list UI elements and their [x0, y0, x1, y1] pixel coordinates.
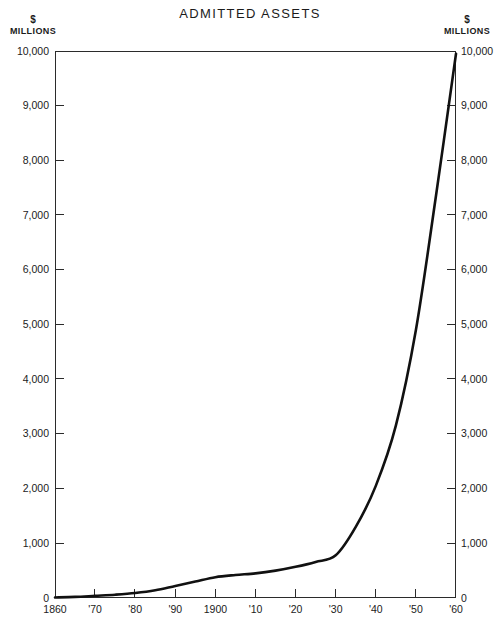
- right-axis-unit-caption: $ MILLIONS: [436, 14, 498, 36]
- y-tick-label-left-10000: 10,000: [1, 46, 49, 57]
- y-tick-label-left-2000: 2,000: [1, 483, 49, 494]
- x-tick-1890: [175, 589, 176, 598]
- y-tick-label-left-3000: 3,000: [1, 428, 49, 439]
- y-tick-label-left-1000: 1,000: [1, 538, 49, 549]
- y-tick-label-left-5000: 5,000: [1, 319, 49, 330]
- y-tick-right-5000: [447, 324, 456, 325]
- y-tick-right-8000: [447, 160, 456, 161]
- dollar-sign-left: $: [2, 14, 64, 26]
- y-tick-label-right-6000: 6,000: [461, 264, 500, 275]
- x-tick-label-1880: '80: [112, 604, 158, 615]
- y-tick-left-8000: [55, 160, 64, 161]
- y-tick-right-2000: [447, 488, 456, 489]
- y-tick-left-2000: [55, 488, 64, 489]
- x-tick-label-1900: 1900: [192, 604, 238, 615]
- y-tick-label-right-4000: 4,000: [461, 374, 500, 385]
- x-tick-label-1920: '20: [273, 604, 319, 615]
- y-tick-label-right-5000: 5,000: [461, 319, 500, 330]
- y-tick-right-1000: [447, 543, 456, 544]
- x-tick-1880: [134, 589, 135, 598]
- x-tick-label-1910: '10: [233, 604, 279, 615]
- y-tick-label-right-10000: 10,000: [461, 46, 500, 57]
- x-tick-label-1890: '90: [152, 604, 198, 615]
- y-tick-right-9000: [447, 105, 456, 106]
- y-tick-left-4000: [55, 378, 64, 379]
- y-tick-left-6000: [55, 269, 64, 270]
- y-tick-label-right-1000: 1,000: [461, 538, 500, 549]
- y-tick-left-5000: [55, 324, 64, 325]
- dollar-sign-right: $: [436, 14, 498, 26]
- x-tick-label-1930: '30: [313, 604, 359, 615]
- y-tick-left-1000: [55, 543, 64, 544]
- x-tick-1940: [375, 589, 376, 598]
- y-tick-label-left-8000: 8,000: [1, 155, 49, 166]
- y-tick-right-4000: [447, 378, 456, 379]
- x-tick-label-1960: '60: [433, 604, 479, 615]
- millions-label-right: MILLIONS: [436, 26, 498, 37]
- y-tick-label-right-0: 0: [461, 593, 500, 604]
- x-tick-1910: [255, 589, 256, 598]
- x-tick-1870: [94, 589, 95, 598]
- y-tick-left-9000: [55, 105, 64, 106]
- plot-area: [55, 51, 456, 598]
- y-tick-label-left-4000: 4,000: [1, 374, 49, 385]
- chart-figure: ADMITTED ASSETS $ MILLIONS $ MILLIONS 00…: [0, 0, 500, 630]
- y-tick-label-left-9000: 9,000: [1, 100, 49, 111]
- x-tick-label-1940: '40: [353, 604, 399, 615]
- x-tick-1920: [295, 589, 296, 598]
- y-tick-left-3000: [55, 433, 64, 434]
- x-tick-label-1860: 1860: [32, 604, 78, 615]
- y-tick-label-right-2000: 2,000: [461, 483, 500, 494]
- y-tick-label-right-7000: 7,000: [461, 210, 500, 221]
- y-tick-right-3000: [447, 433, 456, 434]
- left-axis-unit-caption: $ MILLIONS: [2, 14, 64, 36]
- y-tick-left-7000: [55, 214, 64, 215]
- y-tick-label-right-3000: 3,000: [461, 428, 500, 439]
- x-tick-label-1950: '50: [393, 604, 439, 615]
- x-tick-1950: [415, 589, 416, 598]
- y-tick-label-right-8000: 8,000: [461, 155, 500, 166]
- x-tick-1900: [215, 589, 216, 598]
- y-tick-label-left-7000: 7,000: [1, 210, 49, 221]
- y-tick-label-left-6000: 6,000: [1, 264, 49, 275]
- y-tick-label-left-0: 0: [1, 593, 49, 604]
- y-tick-right-6000: [447, 269, 456, 270]
- x-tick-1930: [335, 589, 336, 598]
- millions-label-left: MILLIONS: [2, 26, 64, 37]
- x-tick-label-1870: '70: [72, 604, 118, 615]
- y-tick-right-7000: [447, 214, 456, 215]
- chart-title: ADMITTED ASSETS: [0, 6, 500, 21]
- y-tick-label-right-9000: 9,000: [461, 100, 500, 111]
